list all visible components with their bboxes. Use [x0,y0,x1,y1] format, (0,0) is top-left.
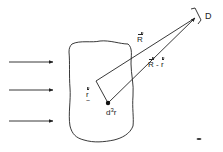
diagram-canvas: R R - r r ~ d3r D [0,0,223,152]
volume-element-dot [106,101,110,105]
label-R-minus-r-r: r [161,61,164,69]
label-R-minus-r-R: R [148,61,154,69]
label-R-minus-r-op: - [154,60,161,69]
vector-R-line [96,18,195,81]
vector-r-line [96,81,108,103]
label-r-tilde: ~ [86,97,90,104]
label-R: R [137,36,143,44]
label-detector-text: D [205,11,212,21]
incident-arrows [9,62,53,121]
label-volume-element: d3r [106,107,116,117]
label-r-var: r [114,108,117,117]
label-R-text: R [137,36,143,44]
label-r-tilde-text: ~ [86,97,90,104]
label-detector: D [205,12,212,21]
diagram-graphics [0,0,223,152]
label-R-minus-r: R - r [148,61,164,69]
detector-bracket [191,8,201,24]
speck-mark [197,138,202,140]
